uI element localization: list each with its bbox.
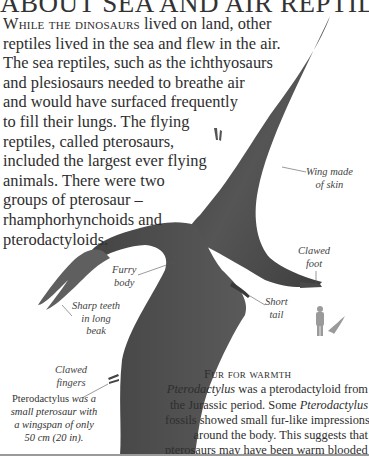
- intro-lead: While the dinosaurs: [3, 14, 140, 33]
- scale-caption: Pterodactylus was a small pterosaur with…: [4, 392, 104, 444]
- label-sharp-teeth: Sharp teeth in long beak: [72, 300, 120, 338]
- box-line: Pterodactylus was a pterodactyloid from: [165, 382, 368, 397]
- box-heading: Fur for warmth: [165, 367, 368, 382]
- box-line: fossils showed small fur-like impression…: [165, 413, 368, 428]
- label-short-tail: Short tail: [265, 296, 288, 321]
- box-line: around the body. This suggests that: [165, 428, 368, 443]
- document-page: ABOUT SEA AND AIR REPTILES: [0, 0, 369, 456]
- teeth-leader: [62, 305, 72, 316]
- intro-paragraph: While the dinosaurs lived on land, other…: [3, 14, 281, 249]
- box-line: the Jurassic period. Some Pterodactylus: [165, 398, 368, 413]
- human-silhouette-icon: [316, 306, 324, 336]
- wing-leader: [282, 167, 306, 172]
- label-clawed-fingers: Clawed fingers: [55, 364, 87, 389]
- label-furry-body: Furry body: [112, 264, 137, 289]
- pterosaur-silhouette-icon: [328, 316, 345, 334]
- tail-leader: [250, 296, 265, 305]
- label-wing: Wing made of skin: [306, 166, 353, 191]
- label-clawed-foot: Clawed foot: [298, 245, 330, 270]
- fur-for-warmth-box: Fur for warmth Pterodactylus was a ptero…: [165, 367, 368, 456]
